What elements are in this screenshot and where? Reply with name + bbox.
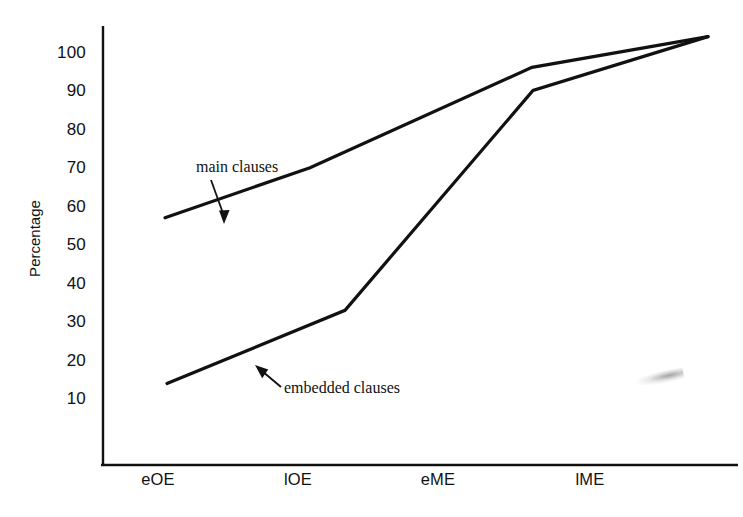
y-tick-label-50: 50 (26, 235, 86, 255)
series-label-embedded-clauses: embedded clauses (284, 379, 400, 397)
x-tick-label-eoe: eOE (98, 470, 218, 489)
y-tick-label-10: 10 (26, 389, 86, 409)
y-tick-label-30: 30 (26, 312, 86, 332)
line-chart-canvas (0, 0, 743, 517)
annotation-arrow-embedded-clauses (255, 365, 281, 387)
series-line-main-clauses (165, 37, 708, 218)
y-tick-label-80: 80 (26, 120, 86, 140)
x-tick-label-loe: lOE (238, 470, 358, 489)
y-tick-label-20: 20 (26, 351, 86, 371)
y-tick-label-90: 90 (26, 81, 86, 101)
y-tick-label-70: 70 (26, 158, 86, 178)
axis-lines (101, 26, 738, 465)
y-tick-label-100: 100 (26, 43, 86, 63)
series-line-embedded-clauses (167, 37, 708, 384)
x-tick-label-eme: eME (378, 470, 498, 489)
chart-figure: Percentage 100 90 80 70 60 50 40 30 20 1… (0, 0, 743, 517)
x-tick-label-lme: lME (530, 470, 650, 489)
y-tick-label-40: 40 (26, 274, 86, 294)
y-tick-label-60: 60 (26, 197, 86, 217)
series-label-main-clauses: main clauses (196, 158, 278, 176)
